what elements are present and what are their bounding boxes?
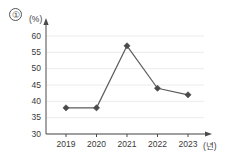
y-axis-line [43, 18, 48, 134]
x-axis-line [46, 131, 212, 136]
svg-text:35: 35 [32, 112, 42, 122]
data-line-series [66, 46, 188, 108]
data-point-markers [63, 43, 191, 111]
x-axis-tick-labels: 20192020202120222023 [57, 139, 198, 149]
svg-text:45: 45 [32, 80, 42, 90]
svg-text:50: 50 [32, 63, 42, 73]
svg-text:2019: 2019 [57, 139, 76, 149]
y-axis-tick-labels: 30354045505560 [32, 31, 42, 139]
svg-text:40: 40 [32, 96, 42, 106]
svg-text:30: 30 [32, 129, 42, 139]
svg-text:60: 60 [32, 31, 42, 41]
svg-text:2022: 2022 [148, 139, 167, 149]
svg-text:2020: 2020 [87, 139, 106, 149]
chart-figure: ① (%) (년) 30354045505560 201920202021202… [0, 0, 228, 160]
svg-text:2021: 2021 [118, 139, 137, 149]
svg-text:55: 55 [32, 47, 42, 57]
svg-text:2023: 2023 [179, 139, 198, 149]
line-chart-plot: 30354045505560 20192020202120222023 [0, 0, 228, 160]
